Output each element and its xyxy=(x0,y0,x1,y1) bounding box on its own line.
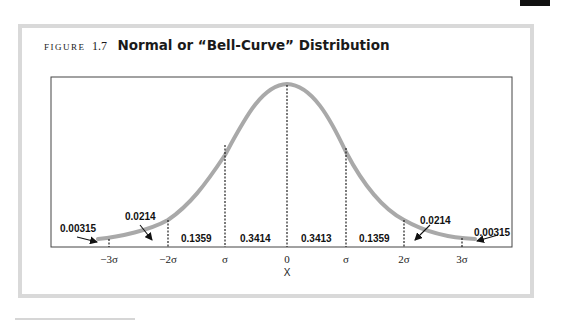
tick-plus-2-sigma: 2σ xyxy=(398,253,410,265)
tick-minus-2-sigma: −2σ xyxy=(159,253,177,265)
bell-curve-chart: 0.00315 0.0214 0.1359 0.3414 0.3413 0.13… xyxy=(0,0,561,322)
page-footer-rule xyxy=(15,318,135,320)
label-left-1: 0.1359 xyxy=(181,233,212,244)
label-right-tail: 0.00315 xyxy=(474,227,511,238)
tick-minus-3-sigma: −3σ xyxy=(100,253,118,265)
label-left-0: 0.3414 xyxy=(240,233,271,244)
tick-minus-1-sigma: σ xyxy=(222,253,228,265)
x-axis-label: X xyxy=(284,267,291,278)
arrow-left-tail xyxy=(77,237,97,242)
label-left-tail: 0.00315 xyxy=(60,223,97,234)
label-left-2: 0.0214 xyxy=(125,211,156,222)
tick-plus-1-sigma: σ xyxy=(343,253,349,265)
label-right-2: 0.0214 xyxy=(420,215,451,226)
label-right-1: 0.1359 xyxy=(359,233,390,244)
tick-zero: 0 xyxy=(284,253,290,265)
tick-plus-3-sigma: 3σ xyxy=(456,253,468,265)
label-right-0: 0.3413 xyxy=(301,233,332,244)
